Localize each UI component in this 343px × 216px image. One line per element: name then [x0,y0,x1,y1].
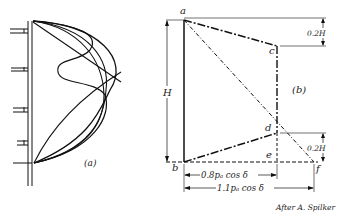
label-H: H [162,87,172,98]
lower-curve [34,72,121,163]
diagram-canvas: (a) H 0.2H [0,0,343,216]
point-e: e [266,149,272,160]
line-ac [184,20,277,46]
label-bottom-02H: 0.2H [307,144,326,153]
panel-b-label: (b) [292,84,306,95]
triangular-pressure-line [33,22,121,82]
point-a: a [180,5,186,16]
point-c: c [269,45,275,56]
panel-a: (a) [10,21,121,186]
label-top-02H: 0.2H [307,29,326,38]
panel-b: H 0.2H 0.2H 0.8pₐ cos δ 1.1pₐ cos δ a b … [161,5,334,193]
point-b: b [172,162,178,173]
label-outer-width: 1.1pₐ cos δ [217,183,264,193]
line-bd [184,133,277,162]
point-f: f [315,163,322,174]
pressure-curve-2 [33,21,106,163]
label-inner-width: 0.8pₐ cos δ [201,170,248,180]
panel-a-label: (a) [84,158,97,168]
point-d: d [265,122,271,133]
pressure-curve-wavy [33,21,106,163]
figure-credit: After A. Spilker [276,203,335,212]
struts [10,29,32,163]
